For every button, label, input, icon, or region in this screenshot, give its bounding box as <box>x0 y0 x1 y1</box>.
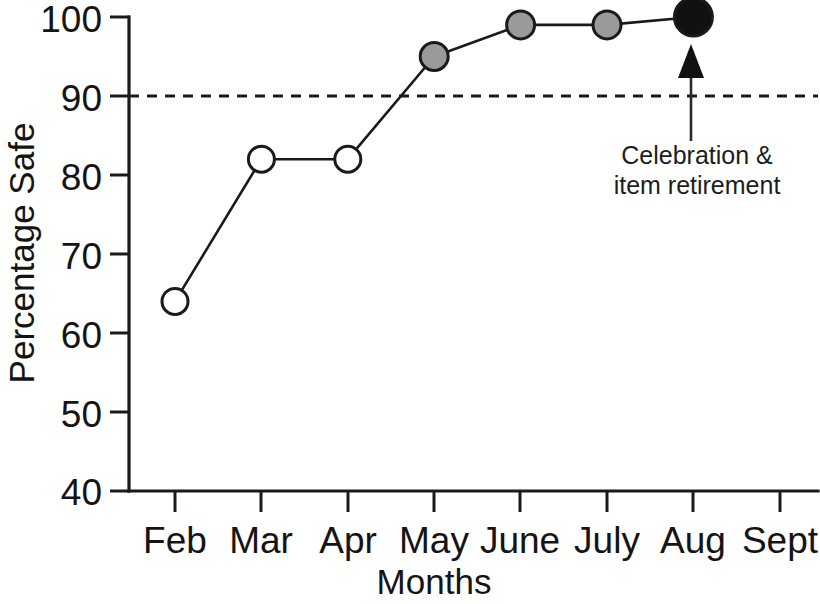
data-point-july <box>593 11 621 39</box>
x-axis-ticks <box>175 491 780 512</box>
x-tick-label-mar: Mar <box>229 520 293 561</box>
x-tick-label-july: July <box>574 520 640 561</box>
y-tick-label-60: 60 <box>61 315 102 356</box>
annotation-arrow <box>678 44 704 141</box>
x-axis-title: Months <box>377 562 492 601</box>
data-point-may <box>420 43 448 71</box>
annotation-line-2: item retirement <box>614 171 781 199</box>
x-tick-label-apr: Apr <box>319 520 377 561</box>
data-point-aug <box>674 0 712 36</box>
annotation-line-1: Celebration & <box>621 141 773 169</box>
x-tick-label-feb: Feb <box>143 520 207 561</box>
y-tick-label-100: 100 <box>40 0 102 40</box>
y-axis-ticks <box>110 17 130 491</box>
up-arrow-icon <box>678 44 704 78</box>
x-tick-label-sept: Sept <box>742 520 819 561</box>
annotation-label: Celebration & item retirement <box>614 141 781 199</box>
line-chart: 100 90 80 70 60 50 40 Feb Mar Apr May Ju… <box>0 0 820 604</box>
chart-container: 100 90 80 70 60 50 40 Feb Mar Apr May Ju… <box>0 0 820 604</box>
y-tick-label-50: 50 <box>61 394 102 435</box>
x-tick-label-june: June <box>480 520 560 561</box>
data-point-feb <box>162 288 188 314</box>
data-point-apr <box>335 146 361 172</box>
y-tick-label-40: 40 <box>61 472 102 513</box>
y-tick-label-70: 70 <box>61 236 102 277</box>
y-axis-tick-labels: 100 90 80 70 60 50 40 <box>40 0 102 513</box>
data-point-june <box>507 11 535 39</box>
y-tick-label-90: 90 <box>61 78 102 119</box>
data-point-mar <box>248 146 274 172</box>
x-tick-label-may: May <box>399 520 469 561</box>
x-axis-tick-labels: Feb Mar Apr May June July Aug Sept <box>143 520 819 561</box>
y-tick-label-80: 80 <box>61 157 102 198</box>
y-axis-title: Percentage Safe <box>2 123 41 384</box>
x-tick-label-aug: Aug <box>660 520 726 561</box>
